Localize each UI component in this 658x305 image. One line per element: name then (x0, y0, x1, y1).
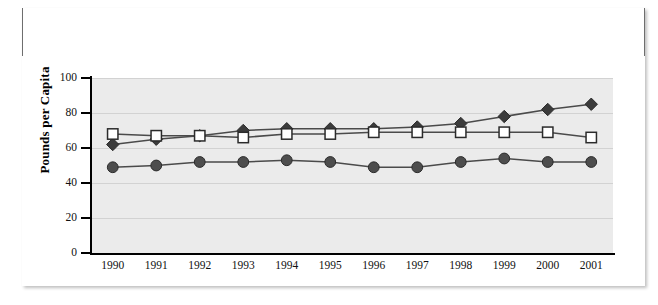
data-point-beef-1997 (412, 127, 422, 137)
data-point-pork-1999 (499, 153, 510, 164)
data-point-pork-1997 (412, 162, 423, 173)
data-point-beef-1993 (238, 132, 248, 142)
chart-series-layer (22, 56, 645, 286)
data-point-beef-2001 (586, 132, 596, 142)
data-point-beef-1998 (456, 127, 466, 137)
data-point-pork-1990 (107, 162, 118, 173)
data-point-beef-1990 (108, 129, 118, 139)
data-point-pork-1995 (325, 157, 336, 168)
data-point-pork-1992 (194, 157, 205, 168)
data-point-pork-1996 (368, 162, 379, 173)
series-chicken (107, 98, 598, 151)
data-point-pork-1991 (151, 160, 162, 171)
data-point-pork-1994 (281, 155, 292, 166)
data-point-chicken-2000 (542, 103, 554, 115)
data-point-beef-1991 (151, 131, 161, 141)
data-point-chicken-1999 (498, 110, 510, 122)
data-point-pork-1993 (238, 157, 249, 168)
data-point-pork-2001 (586, 157, 597, 168)
data-point-pork-1998 (455, 157, 466, 168)
data-point-chicken-1990 (107, 138, 119, 150)
data-point-beef-2000 (543, 127, 553, 137)
data-point-beef-1992 (195, 131, 205, 141)
data-point-pork-2000 (542, 157, 553, 168)
data-point-beef-1994 (282, 129, 292, 139)
data-point-chicken-2001 (585, 98, 597, 110)
data-point-beef-1995 (325, 129, 335, 139)
series-pork (107, 153, 596, 173)
data-point-beef-1999 (499, 127, 509, 137)
line-chart: 020406080100 199019911992199319941995199… (22, 56, 645, 286)
data-point-beef-1996 (369, 127, 379, 137)
